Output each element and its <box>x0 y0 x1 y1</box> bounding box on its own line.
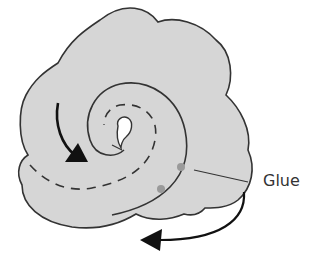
glue-dot <box>177 163 185 171</box>
diagram-canvas: Glue <box>0 0 318 269</box>
glue-dot <box>157 185 165 193</box>
spiral-glue-diagram <box>0 0 318 269</box>
arrowhead-rotate <box>140 229 162 251</box>
cloud-shaped-sheet <box>19 8 252 228</box>
glue-label: Glue <box>263 171 300 190</box>
